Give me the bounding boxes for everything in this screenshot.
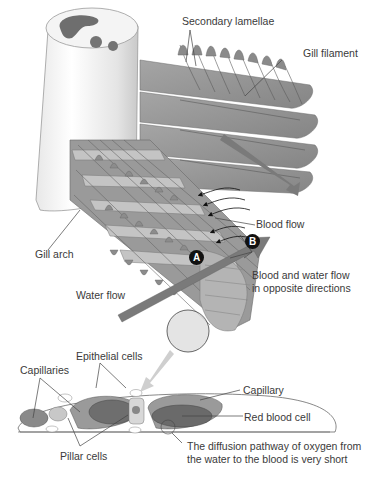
gill-illustration	[0, 0, 385, 482]
label-diffusion-pathway-note: The diffusion pathway of oxygen from the…	[187, 440, 372, 466]
label-gill-filament: Gill filament	[303, 47, 358, 60]
label-pillar-cells: Pillar cells	[60, 450, 107, 463]
magnifier-circle	[167, 310, 209, 352]
label-blood-flow: Blood flow	[256, 218, 304, 231]
zoom-pointer-arrow	[140, 350, 174, 392]
label-secondary-lamellae: Secondary lamellae	[182, 15, 274, 28]
label-epithelial-cells: Epithelial cells	[76, 350, 143, 363]
label-capillaries: Capillaries	[20, 364, 69, 377]
marker-a: A	[189, 250, 204, 265]
label-water-flow: Water flow	[76, 289, 125, 302]
gill-structure-diagram: Secondary lamellae Gill filament Gill ar…	[0, 0, 385, 482]
label-red-blood-cell: Red blood cell	[244, 411, 311, 424]
label-counter-current-flow: Blood and water flow in opposite directi…	[252, 269, 357, 295]
marker-b: B	[245, 234, 260, 249]
label-capillary: Capillary	[243, 384, 284, 397]
label-gill-arch: Gill arch	[35, 248, 74, 261]
